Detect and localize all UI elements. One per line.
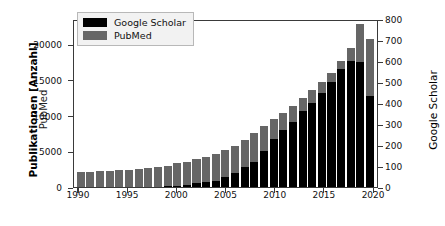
bar-segment-google-scholar <box>173 186 181 187</box>
y-tick-label-right: 500 <box>385 78 402 88</box>
bar-segment-pubmed <box>183 162 191 185</box>
y-tick-mark-right <box>378 62 383 63</box>
y-tick-label-right: 100 <box>385 162 402 172</box>
bar-segment-google-scholar <box>318 93 326 188</box>
x-tick-mark <box>127 188 128 193</box>
bar-segment-google-scholar <box>164 186 172 187</box>
bar-segment-google-scholar <box>289 122 297 187</box>
bar-2013 <box>299 21 307 187</box>
bar-segment-pubmed <box>318 82 326 93</box>
bar-2018 <box>347 21 355 187</box>
bar-segment-pubmed <box>86 172 94 187</box>
legend-item: PubMed <box>83 30 186 41</box>
bar-segment-google-scholar <box>308 103 316 187</box>
bar-segment-pubmed <box>308 90 316 103</box>
bar-segment-pubmed <box>164 166 172 187</box>
bar-2007 <box>241 21 249 187</box>
bar-segment-pubmed <box>231 146 239 174</box>
bar-segment-pubmed <box>366 39 374 96</box>
bar-segment-pubmed <box>337 61 345 69</box>
bar-segment-pubmed <box>202 157 210 183</box>
bar-segment-pubmed <box>192 159 200 183</box>
bar-segment-google-scholar <box>183 185 191 187</box>
y-tick-label-right: 300 <box>385 120 402 130</box>
bar-segment-pubmed <box>221 150 229 177</box>
chart-legend: Google Scholar PubMed <box>77 12 194 46</box>
y-tick-mark-right <box>378 167 383 168</box>
bar-segment-google-scholar <box>366 96 374 187</box>
x-tick-mark <box>274 188 275 193</box>
bar-2016 <box>327 21 335 187</box>
bar-segment-google-scholar <box>202 182 210 187</box>
y-tick-mark-right <box>378 41 383 42</box>
bar-segment-google-scholar <box>250 162 258 187</box>
bar-segment-pubmed <box>115 170 123 187</box>
y-tick-mark-right <box>378 146 383 147</box>
bar-segment-pubmed <box>106 171 114 187</box>
x-tick-mark <box>323 188 324 193</box>
y-tick-label-left: 5000 <box>39 147 62 157</box>
y-tick-label-right: 800 <box>385 15 402 25</box>
x-tick-mark <box>77 188 78 193</box>
y-tick-label-right: 400 <box>385 99 402 109</box>
bar-segment-pubmed <box>356 24 364 62</box>
bar-segment-pubmed <box>154 167 162 187</box>
bar-segment-google-scholar <box>231 173 239 187</box>
bar-segment-google-scholar <box>260 151 268 187</box>
bar-segment-pubmed <box>289 106 297 122</box>
bar-2019 <box>356 21 364 187</box>
bar-segment-pubmed <box>96 171 104 187</box>
bar-segment-pubmed <box>347 48 355 61</box>
bar-segment-google-scholar <box>241 167 249 187</box>
bar-segment-google-scholar <box>270 139 278 187</box>
bar-segment-google-scholar <box>192 183 200 187</box>
bar-segment-pubmed <box>212 154 220 181</box>
legend-swatch-google-scholar <box>83 18 107 27</box>
bar-segment-pubmed <box>77 172 85 187</box>
bar-segment-pubmed <box>144 168 152 187</box>
legend-label: Google Scholar <box>114 17 186 28</box>
y-tick-label-right: 200 <box>385 141 402 151</box>
bar-2005 <box>221 21 229 187</box>
bar-segment-pubmed <box>327 73 335 82</box>
y-tick-label-right: 700 <box>385 36 402 46</box>
bar-segment-google-scholar <box>337 69 345 187</box>
bar-2014 <box>308 21 316 187</box>
y-tick-mark-right <box>378 125 383 126</box>
bar-segment-pubmed <box>125 170 133 188</box>
bar-2003 <box>202 21 210 187</box>
y-tick-label-right: 0 <box>385 183 391 193</box>
y-tick-label-left: 15000 <box>33 76 62 86</box>
bar-segment-google-scholar <box>221 177 229 187</box>
bar-segment-google-scholar <box>327 82 335 187</box>
bar-segment-pubmed <box>260 126 268 151</box>
y-tick-mark-right <box>378 104 383 105</box>
bar-2011 <box>279 21 287 187</box>
x-tick-mark <box>225 188 226 193</box>
bar-segment-pubmed <box>279 113 287 131</box>
bar-2010 <box>270 21 278 187</box>
y-tick-mark-right <box>378 20 383 21</box>
bar-2006 <box>231 21 239 187</box>
bar-2008 <box>250 21 258 187</box>
bar-segment-google-scholar <box>347 61 355 187</box>
y-tick-label-left: 10000 <box>33 112 62 122</box>
bar-2009 <box>260 21 268 187</box>
legend-item: Google Scholar <box>83 17 186 28</box>
legend-label: PubMed <box>114 30 152 41</box>
bar-2015 <box>318 21 326 187</box>
bar-2020 <box>366 21 374 187</box>
bar-segment-google-scholar <box>212 181 220 187</box>
bar-segment-google-scholar <box>299 111 307 187</box>
bar-segment-pubmed <box>250 133 258 162</box>
y-tick-label-left: 20000 <box>33 40 62 50</box>
bar-segment-pubmed <box>173 163 181 185</box>
bar-2012 <box>289 21 297 187</box>
chart-figure: Publikationen [Anzahl] PubMed Google Sch… <box>0 0 445 226</box>
x-tick-mark <box>176 188 177 193</box>
y-tick-label-right: 600 <box>385 57 402 67</box>
y-axis-label-right: Google Scholar <box>427 25 439 195</box>
y-tick-label-left: 0 <box>56 183 62 193</box>
bar-segment-pubmed <box>299 98 307 112</box>
bar-segment-google-scholar <box>279 130 287 187</box>
